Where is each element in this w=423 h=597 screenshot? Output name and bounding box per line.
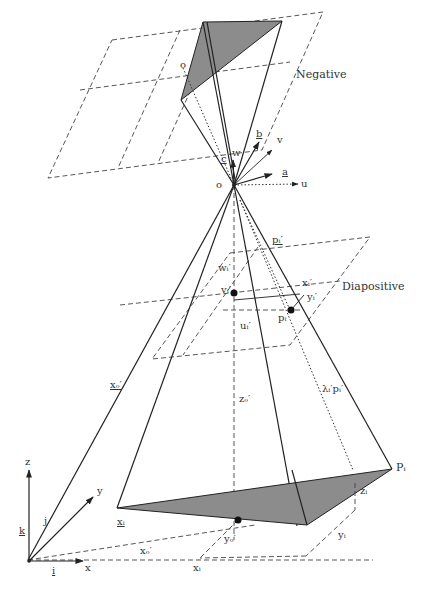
label-vi: vᵢ′ [220, 284, 232, 295]
label-b: b [256, 128, 262, 139]
label-x-axis: x [85, 562, 91, 573]
diapositive-label: Diapositive [342, 280, 404, 293]
collinearity-diagram: Negative o c w b v a u o Diapositive wᵢ′ [0, 0, 423, 597]
point-vi [231, 290, 238, 297]
label-yo: yₒ′ [223, 533, 237, 544]
origin-point [27, 559, 31, 563]
label-y-axis: y [96, 485, 103, 496]
label-wi: wᵢ′ [218, 262, 232, 273]
xi-offset [234, 294, 300, 300]
label-w: w [232, 147, 241, 158]
label-i: i [52, 565, 55, 576]
negative-image-triangle [181, 21, 282, 100]
label-xi-vec: xᵢ [117, 516, 125, 527]
label-xi-prime: xᵢ′ [302, 277, 313, 288]
diapositive-plane [120, 237, 370, 359]
label-zi: zᵢ [360, 485, 367, 496]
point-ground-center [235, 517, 242, 524]
label-xo: xₒ′ [140, 545, 152, 556]
label-pi-vec: pᵢ′ [272, 234, 283, 245]
ground-object-triangle [117, 469, 392, 525]
label-xi-ground: xᵢ [193, 562, 201, 573]
label-j: j [43, 515, 47, 526]
label-o-top: o [180, 59, 186, 70]
label-c: c [221, 153, 227, 164]
label-a: a [282, 166, 288, 177]
label-pi-small: pᵢ [278, 312, 286, 323]
label-lambda-pi: λᵢ′pᵢ′ [322, 383, 344, 394]
label-Pi: Pᵢ [396, 461, 406, 474]
label-k: k [19, 525, 26, 536]
label-ui: uᵢ′ [240, 320, 251, 331]
label-z-axis: z [25, 456, 30, 467]
negative-label: Negative [296, 68, 346, 81]
label-yi-prime: yᵢ′ [306, 291, 318, 302]
label-v: v [276, 134, 283, 145]
label-u: u [301, 178, 308, 189]
label-o-center: o [216, 179, 222, 190]
label-zo: zₒ′ [239, 393, 251, 404]
world-axes [29, 470, 93, 561]
label-xo-vec: xₒ′ [110, 379, 122, 390]
label-yi: yᵢ [337, 529, 346, 540]
